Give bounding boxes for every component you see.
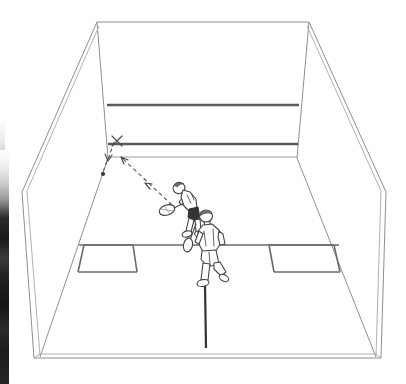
ball-marker bbox=[101, 172, 105, 176]
opponent-front-leg bbox=[201, 263, 210, 280]
front-wall-face bbox=[97, 22, 309, 158]
court-illustration: .wall-line { fill: none; stroke: #8f8f8f… bbox=[0, 0, 406, 384]
right-wall-back-edge-outer bbox=[381, 192, 386, 358]
half-court-line bbox=[205, 285, 206, 348]
back-wall-left-cap bbox=[34, 354, 40, 358]
squash-court-diagram: .wall-line { fill: none; stroke: #8f8f8f… bbox=[0, 0, 406, 384]
back-wall-right-cap bbox=[376, 354, 381, 358]
scan-edge-artifact bbox=[0, 150, 9, 384]
